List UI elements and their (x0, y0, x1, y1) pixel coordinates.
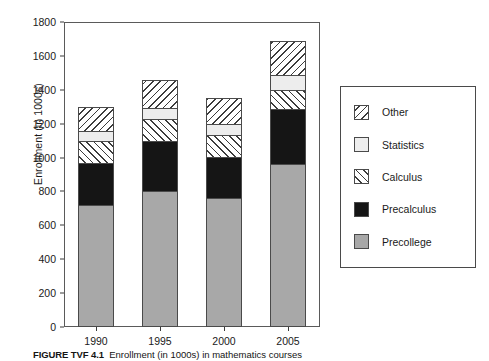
legend-item-statistics[interactable]: Statistics (341, 130, 475, 160)
bar-segment-precalculus (206, 157, 242, 199)
bar-segment-statistics (206, 124, 242, 135)
legend-swatch-icon-statistics (354, 137, 369, 152)
y-axis-tick-labels: 020040060080010001200140016001800 (20, 0, 56, 361)
bar-segment-calculus (270, 90, 306, 109)
bar-segment-calculus (78, 141, 114, 163)
x-axis-tick-labels: 1990199520002005 (64, 335, 320, 349)
bar-1990 (78, 107, 114, 327)
x-axis-tick-label-2005: 2005 (258, 335, 318, 347)
x-axis-tick-mark (288, 327, 289, 331)
bar-segment-calculus (142, 119, 178, 141)
y-axis-tick-label: 1600 (20, 51, 56, 62)
bar-2000 (206, 98, 242, 327)
figure-caption: FIGURE TVF 4.1 Enrollment (in 1000s) in … (33, 349, 483, 360)
legend-item-calculus[interactable]: Calculus (341, 162, 475, 192)
y-axis-tick-label: 400 (20, 254, 56, 265)
bar-segment-precollege (270, 164, 306, 327)
y-axis-tick-label: 200 (20, 288, 56, 299)
legend-label: Calculus (382, 171, 422, 183)
y-axis-tick-label: 1800 (20, 17, 56, 28)
bar-segment-other (78, 107, 114, 132)
bar-segment-precollege (78, 205, 114, 327)
x-axis-tick-mark (160, 327, 161, 331)
legend-label: Statistics (382, 139, 424, 151)
bar-segment-other (270, 41, 306, 75)
figure-container: Enrollment (in 1000s) 020040060080010001… (0, 0, 489, 361)
bar-segment-precalculus (78, 163, 114, 205)
y-axis-tick-label: 1200 (20, 118, 56, 129)
bar-segment-precollege (206, 198, 242, 327)
bar-segment-precalculus (142, 141, 178, 191)
bar-segment-statistics (78, 131, 114, 140)
x-axis-tick-marks (64, 327, 320, 332)
legend-swatch-icon-precollege (354, 234, 369, 249)
bar-segment-statistics (270, 75, 306, 90)
legend-item-precalculus[interactable]: Precalculus (341, 194, 475, 224)
x-axis-tick-label-2000: 2000 (194, 335, 254, 347)
y-axis-tick-label: 600 (20, 220, 56, 231)
legend-box: OtherStatisticsCalculusPrecalculusPrecol… (340, 86, 476, 268)
y-axis-tick-label: 0 (20, 322, 56, 333)
bar-segment-calculus (206, 135, 242, 157)
caption-figure-number: FIGURE TVF 4.1 (33, 349, 104, 360)
y-axis-tick-label: 800 (20, 186, 56, 197)
bar-2005 (270, 41, 306, 327)
x-axis-tick-label-1995: 1995 (130, 335, 190, 347)
legend-swatch-icon-calculus (354, 169, 369, 184)
bar-segment-precalculus (270, 109, 306, 164)
bar-segment-other (142, 80, 178, 109)
legend-label: Precollege (382, 236, 432, 248)
y-axis-tick-label: 1000 (20, 152, 56, 163)
legend-label: Other (382, 106, 408, 118)
legend-swatch-icon-precalculus (354, 202, 369, 217)
legend-label: Precalculus (382, 203, 436, 215)
legend-item-other[interactable]: Other (341, 97, 475, 127)
bar-segment-statistics (142, 108, 178, 119)
x-axis-tick-label-1990: 1990 (66, 335, 126, 347)
bar-segment-precollege (142, 191, 178, 327)
x-axis-tick-mark (96, 327, 97, 331)
plot-area (64, 22, 320, 327)
caption-text: Enrollment (in 1000s) in mathematics cou… (109, 349, 302, 360)
bar-1995 (142, 80, 178, 327)
legend-swatch-icon-other (354, 105, 369, 120)
legend-item-precollege[interactable]: Precollege (341, 227, 475, 257)
bar-segment-other (206, 98, 242, 123)
y-axis-tick-label: 1400 (20, 85, 56, 96)
x-axis-tick-mark (224, 327, 225, 331)
